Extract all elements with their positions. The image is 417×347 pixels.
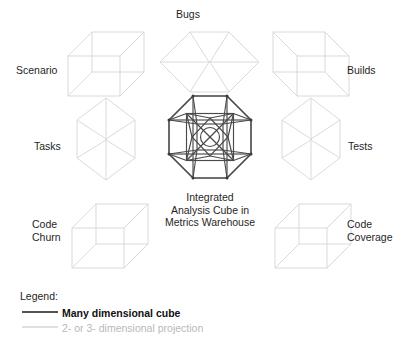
diagram-root: Scenario Bugs Builds Tasks Tests Code Ch…: [0, 0, 417, 347]
diagram-canvas: [0, 0, 417, 347]
cube-label-tests: Tests: [348, 140, 373, 153]
cube-label-bugs: Bugs: [176, 8, 200, 21]
legend-swatches: [22, 312, 58, 327]
cube-tasks: [77, 98, 135, 180]
cube-label-tasks: Tasks: [34, 140, 61, 153]
legend-title: Legend:: [20, 290, 58, 303]
cube-scenario: [68, 32, 144, 96]
cube-bugs: [160, 32, 259, 92]
hypercube-integrated-analysis-cube: [168, 95, 253, 180]
cube-label-code-churn: Code Churn: [32, 218, 61, 243]
cube-code-coverage: [275, 204, 351, 268]
cube-code-churn: [72, 204, 148, 268]
cube-label-scenario: Scenario: [16, 64, 57, 77]
hypercube-caption: Integrated Analysis Cube in Metrics Ware…: [150, 191, 270, 229]
cube-tests: [282, 98, 340, 180]
cube-label-builds: Builds: [347, 64, 376, 77]
legend-label-projection: 2- or 3- dimensional projection: [62, 322, 203, 335]
cube-builds: [273, 32, 349, 96]
cube-label-code-coverage: Code Coverage: [347, 218, 393, 243]
legend-label-many-dimensional-cube: Many dimensional cube: [62, 307, 180, 320]
